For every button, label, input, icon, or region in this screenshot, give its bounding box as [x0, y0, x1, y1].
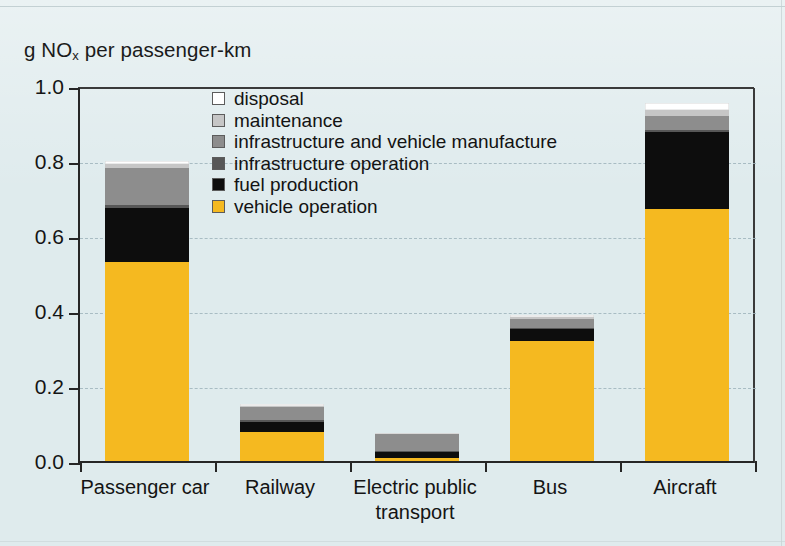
chart-legend: disposalmaintenanceinfrastructure and ve… [212, 88, 557, 217]
bar-segment-infrastructure-and-vehicle-manufacture [510, 319, 594, 328]
x-axis-category-line: Railway [205, 475, 355, 500]
bar-segment-vehicle-operation [240, 432, 324, 461]
bar-segment-infrastructure-and-vehicle-manufacture [240, 407, 324, 420]
y-axis-tick [69, 88, 80, 90]
bar-segment-vehicle-operation [375, 458, 459, 461]
legend-item-infrastructure-operation[interactable]: infrastructure operation [212, 153, 557, 175]
legend-item-fuel-production[interactable]: fuel production [212, 174, 557, 196]
x-axis-category-line: Electric public [340, 475, 490, 500]
y-axis-tick-label: 0.4 [8, 300, 64, 324]
bar-segment-vehicle-operation [645, 209, 729, 461]
y-axis-title: g NOx per passenger-km [24, 38, 251, 63]
x-axis-category-passenger-car: Passenger car [70, 475, 220, 500]
y-axis-title-subscript: x [72, 48, 79, 63]
y-axis-tick-label: 1.0 [8, 75, 64, 99]
bar-segment-infrastructure-and-vehicle-manufacture [645, 116, 729, 130]
page-right-rule [781, 0, 782, 546]
x-axis-category-line: Aircraft [610, 475, 760, 500]
y-axis-tick-label: 0.2 [8, 375, 64, 399]
x-axis-category-line: transport [340, 500, 490, 525]
legend-item-infrastructure-and-vehicle-manufacture[interactable]: infrastructure and vehicle manufacture [212, 131, 557, 153]
y-axis-tick [69, 238, 80, 240]
bar-segment-fuel-production [105, 208, 189, 262]
bar-segment-fuel-production [645, 132, 729, 209]
x-axis-tick [215, 461, 217, 472]
y-axis-title-text: g NOx per passenger-km [24, 38, 251, 61]
y-axis-tick-label: 0.6 [8, 225, 64, 249]
bar-segment-fuel-production [510, 329, 594, 341]
y-axis-tick-label: 0.0 [8, 450, 64, 474]
page-bottom-rule [0, 541, 785, 542]
y-axis-tick [69, 163, 80, 165]
legend-swatch-icon [212, 92, 225, 105]
bar-segment-vehicle-operation [105, 262, 189, 461]
legend-swatch-icon [212, 200, 225, 213]
bar-aircraft[interactable] [645, 103, 729, 461]
bar-segment-infrastructure-and-vehicle-manufacture [375, 434, 459, 450]
legend-item-label: maintenance [234, 111, 343, 130]
page-top-rule [0, 6, 785, 7]
legend-item-label: infrastructure and vehicle manufacture [234, 132, 557, 151]
bar-electric-public-transport[interactable] [375, 433, 459, 461]
x-axis-category-aircraft: Aircraft [610, 475, 760, 500]
legend-item-maintenance[interactable]: maintenance [212, 110, 557, 132]
bar-segment-vehicle-operation [510, 341, 594, 461]
x-axis-category-bus: Bus [475, 475, 625, 500]
bar-passenger-car[interactable] [105, 161, 189, 461]
bar-bus[interactable] [510, 315, 594, 461]
legend-swatch-icon [212, 114, 225, 127]
x-axis-category-line: Bus [475, 475, 625, 500]
x-axis-tick [620, 461, 622, 472]
y-axis-tick [69, 463, 80, 465]
y-axis-tick [69, 313, 80, 315]
legend-swatch-icon [212, 157, 225, 170]
legend-swatch-icon [212, 135, 225, 148]
legend-item-label: fuel production [234, 175, 359, 194]
legend-item-vehicle-operation[interactable]: vehicle operation [212, 196, 557, 218]
bar-segment-fuel-production [240, 422, 324, 432]
legend-swatch-icon [212, 178, 225, 191]
x-axis-category-railway: Railway [205, 475, 355, 500]
legend-item-disposal[interactable]: disposal [212, 88, 557, 110]
legend-item-label: disposal [234, 89, 304, 108]
y-axis-tick [69, 388, 80, 390]
x-axis-tick [350, 461, 352, 472]
bar-railway[interactable] [240, 404, 324, 461]
bar-segment-infrastructure-and-vehicle-manufacture [105, 168, 189, 206]
x-axis-category-line: Passenger car [70, 475, 220, 500]
x-axis-tick [80, 461, 82, 472]
x-axis-tick [485, 461, 487, 472]
x-axis-category-electric-public-transport: Electric publictransport [340, 475, 490, 525]
legend-item-label: vehicle operation [234, 197, 378, 216]
x-axis-tick [755, 461, 757, 472]
legend-item-label: infrastructure operation [234, 154, 429, 173]
bar-segment-disposal [645, 103, 729, 110]
chart-page: g NOx per passenger-km 1.00.80.60.40.20.… [0, 0, 785, 546]
y-axis-tick-label: 0.8 [8, 150, 64, 174]
